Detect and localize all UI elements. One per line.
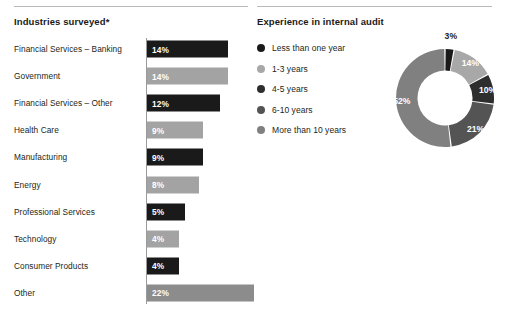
donut-segment-value-label: 10%: [479, 85, 495, 95]
legend-bullet-icon: [257, 106, 265, 114]
bar-value-label: 12%: [152, 98, 169, 108]
bar-value-label: 14%: [152, 71, 169, 81]
bar-track: 9%: [147, 149, 203, 166]
legend-item[interactable]: 1-3 years: [257, 59, 397, 80]
bar-fill: 4%: [147, 257, 179, 274]
bar-track: 5%: [147, 203, 185, 220]
bar-category-label: Government: [14, 71, 60, 81]
panel-divider-rule: [14, 6, 248, 7]
bar-value-label: 9%: [152, 125, 164, 135]
bar-chart-row: Professional Services5%: [14, 199, 248, 225]
legend-item[interactable]: Less than one year: [257, 38, 397, 59]
legend-item[interactable]: More than 10 years: [257, 120, 397, 141]
bar-category-label: Financial Services – Banking: [14, 44, 122, 54]
bar-track: 12%: [147, 95, 220, 112]
legend-item-label: Less than one year: [272, 43, 345, 53]
bar-track: 14%: [147, 68, 228, 85]
donut-segment-value-label: 21%: [467, 124, 485, 134]
bar-value-label: 5%: [152, 207, 164, 217]
legend-item-label: More than 10 years: [272, 125, 346, 135]
bar-value-label: 22%: [152, 288, 169, 298]
bar-chart-row: Other22%: [14, 280, 248, 306]
donut-chart-experience: 3%14%10%21%52%: [395, 10, 495, 150]
bar-chart-row: Government14%: [14, 63, 248, 89]
legend-item[interactable]: 4-5 years: [257, 79, 397, 100]
legend-bullet-icon: [257, 65, 265, 73]
bar-fill: 8%: [147, 176, 199, 193]
bar-chart-row: Technology4%: [14, 226, 248, 252]
donut-segment-value-label: 52%: [395, 96, 411, 106]
bar-value-label: 8%: [152, 180, 164, 190]
bar-fill: 14%: [147, 68, 228, 85]
legend-bullet-icon: [257, 44, 265, 52]
panel-industries-surveyed: Industries surveyed* Financial Services …: [14, 0, 248, 35]
donut-chart-legend: Less than one year1-3 years4-5 years6-10…: [257, 38, 397, 141]
page-title-industries: Industries surveyed*: [14, 16, 248, 27]
legend-item[interactable]: 6-10 years: [257, 100, 397, 121]
donut-segment-value-label: 14%: [462, 58, 480, 68]
bar-category-label: Professional Services: [14, 207, 95, 217]
bar-fill: 9%: [147, 122, 203, 139]
bar-category-label: Technology: [14, 234, 56, 244]
bar-chart-row: Financial Services – Banking14%: [14, 36, 248, 62]
bar-chart-row: Manufacturing9%: [14, 144, 248, 170]
bar-track: 4%: [147, 257, 179, 274]
bar-fill: 4%: [147, 230, 179, 247]
bar-track: 14%: [147, 41, 228, 58]
panel-experience-internal-audit: Experience in internal audit Less than o…: [257, 0, 492, 35]
bar-fill: 5%: [147, 203, 185, 220]
bar-fill: 9%: [147, 149, 203, 166]
bar-value-label: 4%: [152, 261, 164, 271]
bar-chart-row: Consumer Products4%: [14, 253, 248, 279]
legend-item-label: 1-3 years: [272, 64, 308, 74]
bar-category-label: Financial Services – Other: [14, 98, 113, 108]
legend-bullet-icon: [257, 126, 265, 134]
donut-segment-value-label: 3%: [445, 31, 458, 41]
bar-category-label: Energy: [14, 180, 41, 190]
bar-category-label: Other: [14, 288, 35, 298]
bar-value-label: 4%: [152, 234, 164, 244]
bar-track: 8%: [147, 176, 199, 193]
legend-item-label: 4-5 years: [272, 84, 308, 94]
donut-chart-svg: 3%14%10%21%52%: [395, 10, 495, 150]
bar-value-label: 14%: [152, 44, 169, 54]
bar-track: 22%: [147, 284, 254, 301]
bar-fill: 12%: [147, 95, 220, 112]
bar-chart-row: Health Care9%: [14, 117, 248, 143]
bar-fill: 14%: [147, 41, 228, 58]
bar-chart-row: Financial Services – Other12%: [14, 90, 248, 116]
bar-category-label: Manufacturing: [14, 152, 67, 162]
legend-bullet-icon: [257, 85, 265, 93]
bar-chart-row: Energy8%: [14, 172, 248, 198]
bar-value-label: 9%: [152, 152, 164, 162]
bar-fill: 22%: [147, 284, 254, 301]
bar-track: 4%: [147, 230, 179, 247]
bar-category-label: Health Care: [14, 125, 59, 135]
bar-track: 9%: [147, 122, 203, 139]
panel-divider-rule: [257, 6, 492, 7]
legend-item-label: 6-10 years: [272, 105, 313, 115]
bar-chart-industries: Financial Services – Banking14%Governmen…: [14, 36, 248, 308]
bar-category-label: Consumer Products: [14, 261, 88, 271]
